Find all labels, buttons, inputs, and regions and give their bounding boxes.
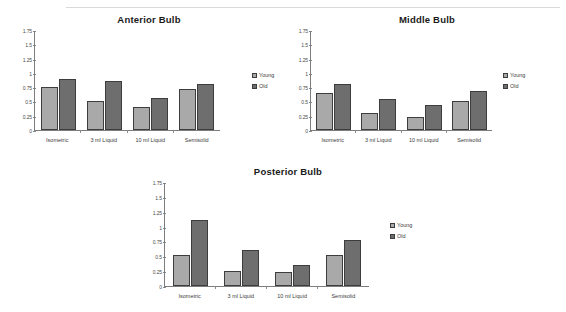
y-axis-tick-label: 1.25 [153, 210, 162, 216]
legend-label-old: Old [397, 233, 406, 239]
y-axis-tick-label: 0.75 [23, 85, 32, 91]
bar-old [59, 79, 76, 130]
legend-label-young: Young [510, 72, 525, 78]
x-axis-tick-label: Isometric [310, 137, 356, 143]
y-axis-tick-label: 0.5 [301, 99, 308, 105]
y-axis-tick-label: 0.25 [153, 269, 162, 275]
x-axis-tick-label: Isometric [34, 137, 81, 143]
bar-young [133, 107, 150, 130]
bar-old [344, 240, 361, 286]
bar-group [318, 183, 369, 286]
chart-anterior-bulb: Anterior Bulb 00.250.50.7511.251.51.75Is… [8, 14, 290, 164]
chart-legend: Young Old [503, 72, 525, 94]
x-axis-tick-label: Semisolid [447, 137, 493, 143]
y-axis-tick-label: 1.75 [299, 28, 308, 34]
bar-old [293, 265, 310, 286]
bar-young [316, 93, 333, 130]
top-divider-rule [66, 7, 560, 8]
bar-young [41, 87, 58, 130]
bar-young [326, 255, 343, 286]
bar-group [311, 31, 356, 130]
bar-old [379, 99, 396, 130]
bar-groups [165, 183, 369, 286]
bar-young [179, 89, 196, 130]
y-axis-tick-label: 1.5 [301, 42, 308, 48]
legend-label-young: Young [397, 222, 412, 228]
legend-label-old: Old [259, 83, 268, 89]
legend-swatch-young-icon [252, 73, 257, 78]
bar-group [81, 31, 127, 130]
y-axis-tick-mark [163, 287, 166, 288]
bar-young [407, 117, 424, 130]
bar-group [402, 31, 447, 130]
legend-label-old: Old [510, 83, 519, 89]
y-axis: 00.250.50.7511.251.51.75 [8, 31, 34, 131]
legend-swatch-young-icon [390, 223, 395, 228]
x-axis-tick-label: 10 ml Liquid [401, 137, 447, 143]
legend-item-young: Young [390, 222, 412, 228]
bar-young [173, 255, 190, 286]
x-axis-tick-label: Semisolid [174, 137, 221, 143]
bar-young [87, 101, 104, 130]
y-axis-tick-label: 1.75 [23, 28, 32, 34]
y-axis-tick-mark [309, 131, 312, 132]
legend-label-young: Young [259, 72, 274, 78]
y-axis-tick-label: 1.75 [153, 180, 162, 186]
y-axis-tick-label: 0.25 [23, 114, 32, 120]
y-axis-tick-label: 1 [29, 71, 32, 77]
bar-old [242, 250, 259, 286]
legend-swatch-old-icon [252, 84, 257, 89]
y-axis-tick-label: 1.25 [23, 57, 32, 63]
bar-old [334, 84, 351, 130]
x-axis-tick-label: 3 ml Liquid [215, 293, 266, 299]
chart-posterior-bulb: Posterior Bulb 00.250.50.7511.251.51.75I… [138, 166, 438, 312]
bar-group [165, 183, 216, 286]
bar-old [425, 105, 442, 130]
bar-old [105, 81, 122, 130]
chart-legend: Young Old [390, 222, 412, 244]
y-axis: 00.250.50.7511.251.51.75 [288, 31, 310, 131]
bar-group [267, 183, 318, 286]
chart-title: Anterior Bulb [8, 14, 290, 25]
y-axis-tick-label: 1 [159, 225, 162, 231]
plot-area [164, 183, 369, 287]
bar-group [356, 31, 401, 130]
bar-old [197, 84, 214, 130]
bar-young [361, 113, 378, 130]
y-axis-tick-label: 0.5 [155, 254, 162, 260]
plot-area [34, 31, 220, 131]
y-axis-tick-label: 0.75 [153, 239, 162, 245]
legend-swatch-old-icon [390, 234, 395, 239]
bar-group [216, 183, 267, 286]
chart-title: Middle Bulb [288, 14, 566, 25]
x-axis-tick-label: 10 ml Liquid [127, 137, 174, 143]
bar-old [191, 220, 208, 286]
legend-item-young: Young [252, 72, 274, 78]
legend-swatch-old-icon [503, 84, 508, 89]
y-axis-tick-label: 0.75 [299, 85, 308, 91]
x-axis-tick-label: Semisolid [318, 293, 369, 299]
y-axis-tick-label: 1.25 [299, 57, 308, 63]
x-axis-tick-label: 3 ml Liquid [81, 137, 128, 143]
bar-young [275, 272, 292, 286]
y-axis: 00.250.50.7511.251.51.75 [138, 183, 164, 287]
x-axis: Isometric3 ml Liquid10 ml LiquidSemisoli… [34, 137, 220, 143]
x-axis-tick-label: 3 ml Liquid [356, 137, 402, 143]
y-axis-tick-label: 1.5 [25, 42, 32, 48]
bar-group [35, 31, 81, 130]
y-axis-tick-label: 0 [29, 128, 32, 134]
x-axis: Isometric3 ml Liquid10 ml LiquidSemisoli… [310, 137, 492, 143]
x-axis-tick-label: Isometric [164, 293, 215, 299]
chart-middle-bulb: Middle Bulb 00.250.50.7511.251.51.75Isom… [288, 14, 566, 164]
y-axis-tick-label: 0 [159, 284, 162, 290]
plot-area [310, 31, 492, 131]
plot-area-wrapper: 00.250.50.7511.251.51.75Isometric3 ml Li… [8, 25, 290, 151]
bar-group [174, 31, 220, 130]
chart-title: Posterior Bulb [138, 166, 438, 177]
bar-old [470, 91, 487, 130]
bar-group [128, 31, 174, 130]
y-axis-tick-label: 1 [305, 71, 308, 77]
x-axis-tick-label: 10 ml Liquid [267, 293, 318, 299]
y-axis-tick-label: 0.5 [25, 99, 32, 105]
bar-groups [311, 31, 492, 130]
